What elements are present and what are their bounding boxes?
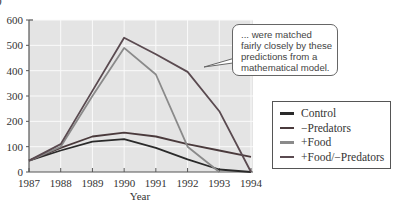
legend-label: Control — [301, 107, 336, 119]
legend-item-plus-food: +Food — [280, 135, 390, 150]
legend-swatch — [280, 141, 294, 144]
x-tick-label: 1988 — [50, 177, 73, 189]
y-tick-label: 200 — [7, 115, 24, 127]
legend-item-control: Control — [280, 106, 390, 121]
legend-swatch — [280, 156, 294, 159]
legend-label: +Food/−Predators — [301, 151, 384, 163]
legend-item-minus-predators: −Predators — [280, 121, 390, 136]
legend: Control −Predators +Food +Food/−Predator… — [272, 101, 391, 169]
annotation-callout: ... were matched fairly closely by these… — [232, 24, 338, 76]
x-tick-label: 1992 — [177, 177, 199, 189]
x-tick-label: 1990 — [113, 177, 136, 189]
x-tick-label: 1987 — [18, 177, 41, 189]
callout-line: fairly closely by these — [241, 40, 337, 51]
callout-line: predictions from a — [241, 51, 337, 62]
legend-label: −Predators — [301, 122, 351, 134]
legend-label: +Food — [301, 136, 331, 148]
legend-swatch — [280, 127, 294, 130]
y-tick-label: 600 — [7, 14, 24, 26]
x-tick-label: 1993 — [208, 177, 231, 189]
callout-line: mathematical model. — [241, 62, 337, 73]
y-tick-label: 300 — [7, 90, 24, 102]
x-tick-label: 1991 — [145, 177, 167, 189]
y-tick-label: 500 — [7, 39, 24, 51]
x-tick-label: 1989 — [81, 177, 104, 189]
callout-line: ... were matched — [241, 29, 337, 40]
legend-item-plus-food-minus-predators: +Food/−Predators — [280, 150, 390, 165]
y-tick-label: 100 — [7, 141, 24, 153]
x-tick-label: 1994 — [240, 177, 263, 189]
y-tick-label: 400 — [7, 65, 24, 77]
legend-swatch — [280, 112, 294, 115]
x-axis-label: Year — [130, 190, 151, 202]
